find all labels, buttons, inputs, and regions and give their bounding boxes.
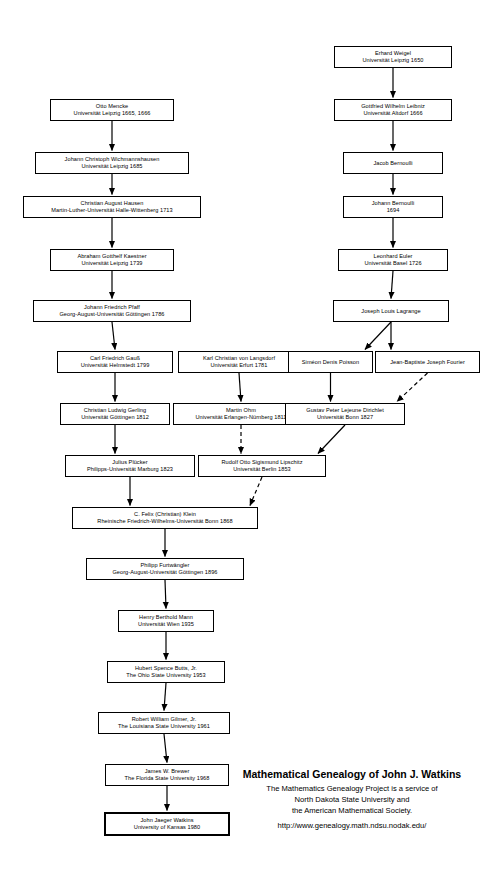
person-node-hausen[interactable]: Christian August HausenMartin-Luther-Uni… <box>23 196 201 218</box>
person-name: Philipp Furtwängler <box>141 562 190 569</box>
person-school: Universität Bonn 1827 <box>317 414 373 421</box>
edge-butts-to-gilmer <box>164 683 166 711</box>
person-school: Universität Göttingen 1812 <box>81 414 149 421</box>
person-school: Martin-Luther-Universität Halle-Wittenbe… <box>51 207 172 214</box>
person-name: Christian Ludwig Gerling <box>84 407 146 414</box>
person-school: Philipps-Universität Marburg 1823 <box>87 466 173 473</box>
edge-furtwangler-to-mann <box>165 580 166 609</box>
person-name: Robert William Gilmer, Jr. <box>132 716 197 723</box>
person-name: Martin Ohm <box>226 407 256 414</box>
person-node-gauss[interactable]: Carl Friedrich GaußUniversität Helmstedt… <box>57 351 173 373</box>
person-node-wichmannshausen[interactable]: Johann Christoph WichmannshausenUniversi… <box>35 152 189 174</box>
person-school: Universität Berlin 1853 <box>233 466 291 473</box>
person-school: Universität Leipzig 1685 <box>81 163 142 170</box>
person-name: Johann Friedrich Pfaff <box>84 304 140 311</box>
person-name: Henry Berthold Mann <box>139 614 193 621</box>
person-name: Abraham Gotthelf Kaestner <box>77 253 146 260</box>
person-school: Universität Basel 1726 <box>364 260 421 267</box>
person-school: Georg-August-Universität Göttingen 1786 <box>59 311 164 318</box>
person-node-mann[interactable]: Henry Berthold MannUniversität Wien 1935 <box>118 610 214 632</box>
person-node-plucker[interactable]: Julius PlückerPhilipps-Universität Marbu… <box>65 455 195 477</box>
person-name: Christian August Hausen <box>81 200 144 207</box>
person-node-lipschitz[interactable]: Rudolf Otto Sigismund LipschitzUniversit… <box>198 455 326 477</box>
person-name: Johann Christoph Wichmannshausen <box>65 156 160 163</box>
person-name: C. Felix (Christian) Klein <box>134 511 196 518</box>
person-node-leibniz[interactable]: Gottfried Wilhelm LeibnizUniversität Alt… <box>334 99 452 121</box>
person-node-furtwangler[interactable]: Philipp FurtwänglerGeorg-August-Universi… <box>86 558 244 580</box>
edge-fourier-to-dirichlet <box>397 373 428 402</box>
credit-line-3: the American Mathematical Society. <box>214 805 490 816</box>
genealogy-chart: Erhard WeigelUniversität Leipzig 1650Ott… <box>0 0 490 884</box>
person-name: Rudolf Otto Sigismund Lipschitz <box>221 459 302 466</box>
project-url: http://www.genealogy.math.ndsu.nodak.edu… <box>214 821 490 830</box>
person-node-mencke[interactable]: Otto MenckeUniversität Leipzig 1665, 166… <box>50 99 174 121</box>
person-school: Universität Leipzig 1650 <box>362 57 423 64</box>
edge-gilmer-to-brewer <box>164 734 167 763</box>
person-node-poisson[interactable]: Siméon Denis Poisson <box>288 351 373 373</box>
person-node-gerling[interactable]: Christian Ludwig GerlingUniversität Gött… <box>60 403 170 425</box>
person-node-langsdorf[interactable]: Karl Christian von LangsdorfUniversität … <box>178 351 300 373</box>
person-school: Universität Helmstedt 1799 <box>81 362 150 369</box>
person-name: Johann Bernoulli <box>372 200 415 207</box>
person-school: 1694 <box>387 207 400 214</box>
person-name: Gustav Peter Lejeune Dirichlet <box>306 407 384 414</box>
edge-langsdorf-to-ohm <box>239 373 241 402</box>
person-name: Siméon Denis Poisson <box>302 359 359 366</box>
person-node-weigel[interactable]: Erhard WeigelUniversität Leipzig 1650 <box>334 46 452 68</box>
person-school: Rheinische Friedrich-Wilhelms-Universitä… <box>97 518 232 525</box>
person-node-lagrange[interactable]: Joseph Louis Lagrange <box>333 300 449 322</box>
person-name: Gottfried Wilhelm Leibniz <box>361 103 425 110</box>
person-node-johannbernoulli[interactable]: Johann Bernoulli1694 <box>343 196 443 218</box>
person-name: James W. Brewer <box>145 768 190 775</box>
person-name: Joseph Louis Lagrange <box>361 308 420 315</box>
person-school: Universität Leipzig 1665, 1666 <box>74 110 151 117</box>
person-node-butts[interactable]: Hubert Spence Butts, Jr.The Ohio State U… <box>107 661 225 683</box>
edge-pfaff-to-gauss <box>112 322 115 350</box>
person-school: Universität Wien 1935 <box>138 621 194 628</box>
person-name: John Jaeger Watkins <box>140 817 193 824</box>
person-node-dirichlet[interactable]: Gustav Peter Lejeune DirichletUniversitä… <box>285 403 405 425</box>
person-node-klein[interactable]: C. Felix (Christian) KleinRheinische Fri… <box>72 507 258 529</box>
person-node-euler[interactable]: Leonhard EulerUniversität Basel 1726 <box>338 249 448 271</box>
credit-line-2: North Dakota State University and <box>214 794 490 805</box>
person-name: Carl Friedrich Gauß <box>90 355 140 362</box>
person-school: Universität Altdorf 1666 <box>363 110 422 117</box>
person-school: The Ohio State University 1953 <box>126 672 205 679</box>
person-name: Leonhard Euler <box>373 253 412 260</box>
person-school: The Florida State University 1968 <box>125 775 210 782</box>
person-name: Hubert Spence Butts, Jr. <box>135 665 197 672</box>
person-name: Julius Plücker <box>112 459 147 466</box>
person-node-brewer[interactable]: James W. BrewerThe Florida State Univers… <box>105 764 229 786</box>
person-node-pfaff[interactable]: Johann Friedrich PfaffGeorg-August-Unive… <box>33 300 191 322</box>
title-block: Mathematical Genealogy of John J. Watkin… <box>214 768 490 830</box>
person-school: University of Kansas 1980 <box>134 824 200 831</box>
person-node-kaestner[interactable]: Abraham Gotthelf KaestnerUniversität Lei… <box>50 249 174 271</box>
person-school: Georg-August-Universität Göttingen 1896 <box>112 569 217 576</box>
edge-layer <box>0 0 490 884</box>
person-name: Jacob Bernoulli <box>373 160 412 167</box>
person-node-gilmer[interactable]: Robert William Gilmer, Jr.The Louisiana … <box>98 712 230 734</box>
edge-lipschitz-to-klein <box>250 477 262 506</box>
chart-heading: Mathematical Genealogy of John J. Watkin… <box>214 768 490 780</box>
edge-dirichlet-to-lipschitz <box>318 425 345 454</box>
person-node-watkins[interactable]: John Jaeger WatkinsUniversity of Kansas … <box>104 812 230 836</box>
edge-euler-to-lagrange <box>391 271 393 299</box>
person-node-jacobbernoulli[interactable]: Jacob Bernoulli <box>343 152 443 174</box>
person-name: Jean-Baptiste Joseph Fourier <box>390 359 465 366</box>
person-name: Karl Christian von Langsdorf <box>203 355 275 362</box>
person-node-fourier[interactable]: Jean-Baptiste Joseph Fourier <box>375 351 480 373</box>
person-school: Universität Erfurt 1781 <box>211 362 268 369</box>
person-name: Otto Mencke <box>96 103 128 110</box>
person-school: The Louisiana State University 1961 <box>118 723 210 730</box>
person-name: Erhard Weigel <box>375 50 411 57</box>
edge-lagrange-to-poisson <box>365 322 391 350</box>
person-school: Universität Leipzig 1739 <box>81 260 142 267</box>
credit-line-1: The Mathematics Genealogy Project is a s… <box>214 783 490 794</box>
person-school: Universität Erlangen-Nürnberg 1811 <box>195 414 286 421</box>
